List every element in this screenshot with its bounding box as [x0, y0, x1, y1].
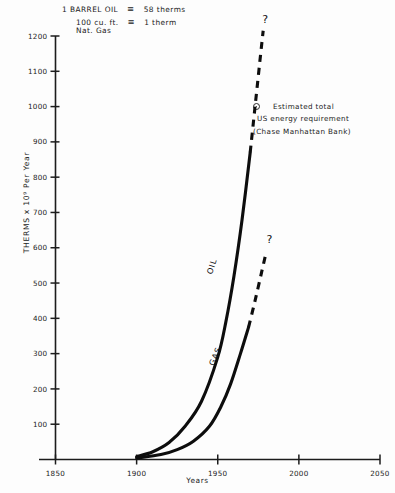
y-tick-label: 500 — [33, 279, 48, 288]
chart-axes — [39, 36, 380, 460]
y-tick-label: 600 — [33, 243, 48, 252]
x-tick-label: 2000 — [289, 469, 309, 478]
oil-question-mark: ? — [262, 13, 268, 26]
y-tick-label: 300 — [33, 349, 48, 358]
series-label-oil: OIL — [205, 257, 219, 275]
series-line-dashed-oil — [250, 31, 263, 153]
x-axis-ticks: 18501900195020002050 — [46, 455, 390, 478]
chart-page: 1 BARREL OIL ≡ 58 therms 100 cu. ft. Nat… — [0, 0, 395, 493]
gas-question-mark: ? — [267, 233, 273, 246]
y-tick-label: 900 — [33, 137, 48, 146]
x-tick-label: 2050 — [370, 469, 390, 478]
y-tick-label: 800 — [33, 173, 48, 182]
series-line-dashed-gas — [249, 251, 267, 327]
y-tick-label: 400 — [33, 314, 48, 323]
y-tick-label: 1000 — [28, 102, 48, 111]
y-tick-label: 700 — [33, 208, 48, 217]
x-tick-label: 1900 — [127, 469, 147, 478]
series-line-oil — [137, 152, 251, 456]
chart-plot-area: 100200300400500600700800900100011001200 … — [0, 0, 395, 493]
y-tick-label: 100 — [33, 420, 48, 429]
series-label-gas: GAS — [208, 345, 224, 367]
y-tick-label: 1100 — [28, 67, 48, 76]
chart-series — [137, 31, 267, 458]
chart-series-labels: OILGAS?? — [205, 13, 272, 367]
y-tick-label: 200 — [33, 385, 48, 394]
y-tick-label: 1200 — [28, 32, 48, 41]
x-tick-label: 1950 — [208, 469, 228, 478]
series-line-gas — [137, 327, 249, 458]
x-tick-label: 1850 — [46, 469, 66, 478]
